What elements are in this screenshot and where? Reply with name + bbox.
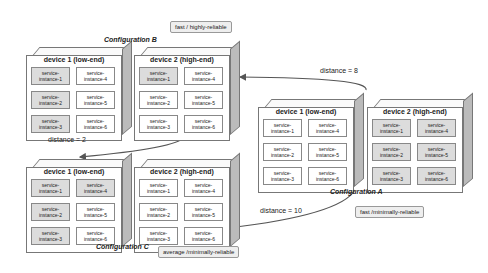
service-instance: service-instance-1 — [372, 119, 411, 137]
config-b-label: Configuration B — [104, 36, 157, 43]
service-instance: service-instance-3 — [31, 115, 70, 133]
service-instance: service-instance-1 — [139, 67, 178, 85]
config-c-label: Configuration C — [96, 243, 149, 250]
distance-label-a-b: distance = 8 — [320, 67, 358, 74]
distance-label-a-c: distance = 10 — [260, 207, 302, 214]
service-instance: service-instance-6 — [76, 115, 115, 133]
service-instance: service-instance-5 — [76, 91, 115, 109]
service-instance: service-instance-2 — [263, 143, 302, 161]
distance-label-b-c: distance = 2 — [48, 136, 86, 143]
config-a-label: Configuration A — [330, 188, 383, 195]
service-instance: service-instance-1 — [263, 119, 302, 137]
service-instance: service-instance-6 — [417, 167, 456, 185]
service-instance: service-instance-4 — [76, 179, 115, 197]
config-b-note: fast / highly-reliable — [170, 21, 232, 33]
config-a-note: fast /minimally-reliable — [355, 206, 424, 218]
service-instance: service-instance-3 — [139, 115, 178, 133]
device-title: device 1 (low-end) — [26, 56, 122, 63]
service-instance: service-instance-6 — [308, 167, 347, 185]
service-instance: service-instance-1 — [31, 179, 70, 197]
device-title: device 2 (high-end) — [367, 108, 463, 115]
service-instance: service-instance-5 — [184, 203, 223, 221]
service-instance: service-instance-5 — [417, 143, 456, 161]
service-instance: service-instance-2 — [31, 91, 70, 109]
device-title: device 2 (high-end) — [134, 56, 230, 63]
device-title: device 1 (low-end) — [26, 168, 122, 175]
device-title: device 2 (high-end) — [134, 168, 230, 175]
service-instance: service-instance-1 — [139, 179, 178, 197]
config-c-note: average /minimally-reliable — [158, 246, 239, 258]
service-instance: service-instance-1 — [31, 67, 70, 85]
service-instance: service-instance-3 — [372, 167, 411, 185]
service-instance: service-instance-4 — [417, 119, 456, 137]
service-instance: service-instance-2 — [139, 203, 178, 221]
arrow-A-to-B — [240, 77, 366, 90]
service-instance: service-instance-5 — [184, 91, 223, 109]
service-instance: service-instance-4 — [308, 119, 347, 137]
device-title: device 1 (low-end) — [258, 108, 354, 115]
service-instance: service-instance-2 — [372, 143, 411, 161]
service-instance: service-instance-5 — [76, 203, 115, 221]
service-instance: service-instance-4 — [184, 67, 223, 85]
service-instance: service-instance-5 — [308, 143, 347, 161]
service-instance: service-instance-2 — [139, 91, 178, 109]
service-instance: service-instance-3 — [263, 167, 302, 185]
service-instance: service-instance-4 — [76, 67, 115, 85]
service-instance: service-instance-6 — [184, 227, 223, 245]
service-instance: service-instance-6 — [184, 115, 223, 133]
service-instance: service-instance-4 — [184, 179, 223, 197]
service-instance: service-instance-3 — [31, 227, 70, 245]
service-instance: service-instance-2 — [31, 203, 70, 221]
